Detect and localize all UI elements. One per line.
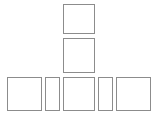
- box-bottom-right: [116, 77, 151, 111]
- box-bottom-right-narrow: [98, 77, 113, 111]
- box-bottom-left: [7, 77, 42, 111]
- box-middle: [63, 38, 95, 73]
- box-top: [63, 4, 95, 34]
- box-bottom-left-narrow: [45, 77, 60, 111]
- box-bottom-center: [63, 77, 95, 111]
